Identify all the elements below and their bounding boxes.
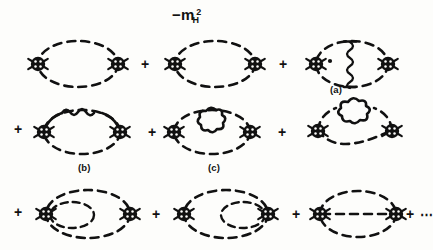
- vertex-blob-right: [110, 125, 130, 139]
- row-leading-plus: +: [14, 121, 22, 137]
- ellipsis-continuation: ⋯: [420, 207, 433, 222]
- vertex-blob-right: [240, 125, 260, 139]
- solid-arc-right: [102, 113, 118, 126]
- vertex-blob-left: [308, 124, 328, 138]
- plus-operator: +: [279, 56, 287, 72]
- wavy-line-endcaps: [344, 42, 356, 88]
- diagram-bubble-right-tadpole-loop: [174, 190, 278, 238]
- diagram-bubble-wavy-exchange: [306, 41, 398, 88]
- diagram-bubble-plain-2: [165, 41, 265, 87]
- plus-operator: +: [148, 124, 156, 140]
- row-leading-plus: +: [14, 204, 22, 220]
- plus-operator: +: [152, 206, 160, 222]
- diagram-bubble-wavy-arc: [34, 109, 130, 154]
- plus-operator: +: [278, 124, 286, 140]
- dashed-ellipse-loop: [175, 41, 255, 87]
- cloud-loop-blob: [338, 98, 370, 123]
- feynman-diagram-figure: + + + + +: [0, 0, 433, 250]
- vertex-blob-right: [245, 57, 265, 71]
- cloud-loop-blob: [198, 108, 226, 133]
- vertex-blob-left: [34, 125, 54, 139]
- vertex-blob-right: [120, 207, 140, 221]
- dashed-arc-lower: [318, 130, 392, 144]
- vertex-blob-left: [28, 57, 48, 71]
- plus-operator: +: [292, 206, 300, 222]
- diagram-bubble-cloud-inner: [164, 108, 260, 154]
- inner-dashed-loop: [50, 202, 94, 228]
- vertex-blob-right: [378, 57, 398, 71]
- mass-exponent: 2: [196, 7, 201, 17]
- diagram-sunset-three-line: [310, 191, 406, 237]
- inner-dashed-loop: [221, 202, 265, 228]
- vertex-blob-right: [382, 124, 402, 138]
- mass-term-label: −mH2: [172, 6, 201, 25]
- dashed-ellipse-loop: [38, 41, 118, 87]
- wavy-exchange-line: [347, 42, 353, 88]
- diagram-bubble-plain-1: [28, 41, 128, 87]
- plus-operator: +: [406, 206, 414, 222]
- interaction-dot: [328, 59, 332, 63]
- diagram-bubble-left-tadpole-loop: [36, 190, 140, 238]
- diagram-label-c: (c): [208, 162, 220, 173]
- minus-sign: −: [172, 6, 181, 23]
- vertex-blob-right: [386, 207, 406, 221]
- vertex-blob-left: [310, 207, 330, 221]
- plus-operator: +: [141, 56, 149, 72]
- vertex-blob-left: [164, 125, 184, 139]
- vertex-blob-left: [306, 57, 326, 71]
- vertex-blob-left: [174, 207, 194, 221]
- dashed-ellipse-loop: [46, 190, 130, 238]
- solid-arc-left: [46, 113, 62, 126]
- diagram-bubble-cloud-on-top: [308, 98, 402, 144]
- diagram-label-b: (b): [78, 162, 91, 173]
- dashed-ellipse-loop: [184, 190, 268, 238]
- vertex-blob-right: [108, 57, 128, 71]
- vertex-blob-left: [165, 57, 185, 71]
- diagram-label-a: (a): [330, 84, 342, 95]
